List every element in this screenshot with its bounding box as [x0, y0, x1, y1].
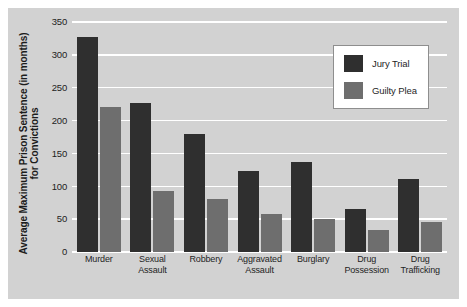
y-axis-tick-label: 350 — [52, 16, 67, 27]
bar — [314, 219, 335, 252]
bar — [421, 222, 442, 252]
bar — [207, 199, 228, 252]
legend-item-jury-trial: Jury Trial — [344, 55, 417, 72]
bar — [291, 162, 312, 252]
bar — [345, 209, 366, 252]
bar — [77, 37, 98, 252]
bar — [130, 103, 151, 252]
y-axis-tick-label: 250 — [52, 81, 67, 92]
bar — [368, 230, 389, 252]
x-axis-label: DrugTrafficking — [393, 254, 447, 277]
x-axis-label: AggravatedAssault — [233, 254, 287, 277]
y-axis-tick-label: 200 — [52, 114, 67, 125]
y-axis-tick-label: 0 — [62, 246, 67, 257]
bar — [261, 214, 282, 252]
bar-group — [126, 22, 180, 252]
y-axis-title: Average Maximum Prison Sentence (in mont… — [14, 2, 44, 285]
bar-group — [72, 22, 126, 252]
y-axis-tick-label: 300 — [52, 49, 67, 60]
y-axis-title-line-2: for Convictions — [29, 108, 41, 180]
y-axis-title-line-1: Average Maximum Prison Sentence (in mont… — [18, 32, 30, 254]
bar-chart-figure: Average Maximum Prison Sentence (in mont… — [0, 0, 467, 307]
bar — [238, 171, 259, 252]
legend-swatch-guilty-plea — [344, 82, 363, 99]
y-axis-tick-label: 50 — [57, 213, 67, 224]
bar-group — [179, 22, 233, 252]
legend: Jury Trial Guilty Plea — [333, 45, 429, 109]
x-axis-label: Robbery — [179, 254, 233, 277]
x-axis-label: DrugPossession — [340, 254, 394, 277]
legend-label-guilty-plea: Guilty Plea — [372, 85, 417, 96]
bar — [184, 134, 205, 252]
bar-group — [286, 22, 340, 252]
x-axis-label: Burglary — [286, 254, 340, 277]
legend-swatch-jury-trial — [344, 55, 363, 72]
bar-group — [233, 22, 287, 252]
y-axis-tick-label: 150 — [52, 147, 67, 158]
bar — [398, 179, 419, 252]
x-axis-label: SexualAssault — [126, 254, 180, 277]
x-axis-labels: MurderSexualAssaultRobberyAggravatedAssa… — [72, 254, 447, 277]
y-axis-tick-label: 100 — [52, 180, 67, 191]
bar — [153, 191, 174, 252]
legend-item-guilty-plea: Guilty Plea — [344, 82, 417, 99]
legend-label-jury-trial: Jury Trial — [372, 58, 410, 69]
x-axis-label: Murder — [72, 254, 126, 277]
bar — [100, 107, 121, 252]
